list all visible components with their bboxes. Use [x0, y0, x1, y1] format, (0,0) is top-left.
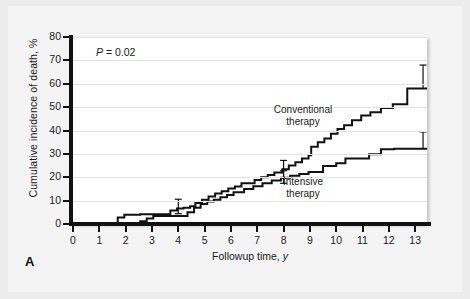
y-axis-title: Cumulative incidence of death, %	[27, 23, 39, 213]
y-tick-50	[63, 106, 69, 108]
y-tick-40	[63, 130, 69, 132]
y-tick-70	[63, 59, 69, 61]
x-tick-6	[230, 226, 232, 232]
x-tick-label-4: 4	[168, 235, 188, 246]
conventional-label-line1: Conventional	[258, 104, 348, 116]
x-tick-7	[256, 226, 258, 232]
x-tick-13	[414, 226, 416, 232]
series-line-conventional	[73, 88, 427, 224]
x-tick-12	[388, 226, 390, 232]
y-axis-line	[69, 35, 73, 226]
y-tick-label-text: 0	[35, 218, 61, 228]
figure-page: 01020304050607080 012345678910111213 Cum…	[0, 0, 470, 299]
x-tick-label-3: 3	[142, 235, 162, 246]
gridline-40	[73, 131, 427, 132]
x-tick-1	[98, 226, 100, 232]
y-tick-label-0: 0	[33, 218, 61, 228]
y-tick-80	[63, 36, 69, 38]
plot-canvas	[73, 37, 427, 224]
error-bar-2	[420, 65, 427, 88]
gridline-20	[73, 177, 427, 178]
x-tick-label-0: 0	[63, 235, 83, 246]
x-axis-title-unit: y	[283, 250, 288, 262]
x-tick-label-9: 9	[300, 235, 320, 246]
kaplan-meier-figure: 01020304050607080 012345678910111213 Cum…	[0, 0, 470, 299]
x-tick-label-1: 1	[89, 235, 109, 246]
gridline-80	[73, 37, 427, 38]
x-tick-10	[335, 226, 337, 232]
x-tick-label-6: 6	[221, 235, 241, 246]
gridline-50	[73, 107, 427, 108]
x-tick-2	[125, 226, 127, 232]
p-value-annotation: P = 0.02	[96, 46, 135, 58]
x-axis-title-text: Followup time,	[212, 250, 283, 262]
series-line-intensive	[73, 149, 427, 224]
x-tick-0	[72, 226, 74, 232]
x-tick-label-13: 13	[405, 235, 425, 246]
conventional-therapy-label: Conventional therapy	[258, 104, 348, 127]
x-tick-label-5: 5	[195, 235, 215, 246]
x-tick-label-11: 11	[353, 235, 373, 246]
x-axis-line	[69, 222, 431, 226]
gridline-10	[73, 201, 427, 202]
y-tick-0	[63, 223, 69, 225]
x-tick-label-10: 10	[326, 235, 346, 246]
x-tick-5	[204, 226, 206, 232]
x-axis-title: Followup time, y	[73, 250, 427, 262]
p-symbol: P	[96, 46, 103, 58]
p-value-number: = 0.02	[103, 46, 135, 58]
x-tick-11	[362, 226, 364, 232]
x-tick-8	[283, 226, 285, 232]
intensive-label-line1: Intensive	[258, 176, 348, 188]
intensive-label-line2: therapy	[258, 188, 348, 200]
x-tick-9	[309, 226, 311, 232]
y-tick-60	[63, 83, 69, 85]
y-tick-20	[63, 176, 69, 178]
x-tick-label-7: 7	[247, 235, 267, 246]
x-tick-3	[151, 226, 153, 232]
error-bar-4	[420, 132, 427, 149]
gridline-60	[73, 84, 427, 85]
x-tick-label-12: 12	[379, 235, 399, 246]
intensive-therapy-label: Intensive therapy	[258, 176, 348, 199]
gridline-70	[73, 60, 427, 61]
gridline-30	[73, 154, 427, 155]
conventional-label-line2: therapy	[258, 116, 348, 128]
x-tick-label-8: 8	[274, 235, 294, 246]
y-tick-10	[63, 200, 69, 202]
panel-letter: A	[25, 254, 34, 269]
x-tick-4	[177, 226, 179, 232]
plot-area	[73, 37, 427, 224]
x-tick-label-2: 2	[116, 235, 136, 246]
y-tick-30	[63, 153, 69, 155]
